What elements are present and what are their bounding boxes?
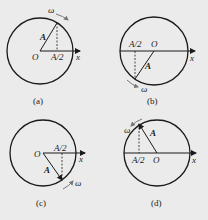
origin-label: O — [32, 52, 39, 62]
amplitude-label: A — [149, 128, 156, 138]
amplitude-label: A — [144, 61, 151, 71]
panel-c: ω A O A/2 x (c) — [10, 120, 85, 208]
omega-rotation-arrow — [56, 14, 68, 20]
panel-caption: (d) — [151, 198, 162, 208]
omega-rotation-arrow — [63, 181, 73, 189]
omega-label: ω — [141, 84, 147, 94]
x-axis-label: x — [189, 53, 194, 63]
panel-caption: (c) — [36, 198, 46, 208]
panel-d: ω A O A/2 x (d) — [124, 119, 196, 208]
panel-a: ω A O A/2 x (a) — [7, 5, 80, 106]
omega-label: ω — [124, 125, 130, 135]
omega-label: ω — [75, 178, 81, 188]
x-axis-label: x — [75, 52, 80, 62]
panel-caption: (b) — [147, 96, 158, 106]
amplitude-label: A — [43, 165, 50, 175]
origin-label: O — [34, 149, 41, 159]
amplitude-label: A — [39, 32, 46, 42]
origin-label: O — [153, 155, 160, 165]
half-amplitude-label: A/2 — [128, 39, 142, 49]
omega-rotation-arrow — [127, 80, 138, 87]
panel-caption: (a) — [33, 96, 43, 106]
origin-label: O — [151, 39, 158, 49]
half-amplitude-label: A/2 — [50, 52, 64, 62]
half-amplitude-label: A/2 — [131, 155, 145, 165]
panel-b: ω A O A/2 x (b) — [120, 17, 195, 106]
x-axis-label: x — [78, 154, 83, 164]
x-axis-label: x — [191, 155, 196, 165]
half-amplitude-label: A/2 — [53, 143, 67, 153]
phasor-diagram-figure: ω A O A/2 x (a) ω A O A/2 x (b) ω A O A/… — [0, 0, 208, 220]
omega-label: ω — [48, 5, 54, 15]
